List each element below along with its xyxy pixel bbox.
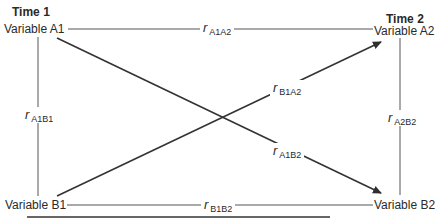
coef-symbol: r	[273, 80, 277, 95]
node-variable-b2: Variable B2	[374, 198, 435, 212]
coef-a1b2: rA1B2	[270, 143, 304, 159]
edge-b1-a2	[57, 42, 381, 196]
coef-symbol: r	[388, 110, 392, 125]
coef-a1a2: rA1A2	[200, 20, 234, 36]
coef-b1b2: rB1B2	[201, 197, 235, 213]
node-variable-b1: Variable B1	[5, 198, 66, 212]
coef-subscript: A1A2	[209, 27, 231, 37]
coef-symbol: r	[25, 107, 29, 122]
edge-a1-b2	[57, 38, 381, 193]
coef-subscript: B1A2	[279, 87, 301, 97]
coef-a2b2: rA2B2	[385, 110, 419, 126]
time1-label: Time 1	[12, 5, 50, 19]
node-variable-a2: Variable A2	[374, 24, 435, 38]
coef-symbol: r	[203, 20, 207, 35]
coef-symbol: r	[204, 197, 208, 212]
coef-subscript: A2B2	[394, 117, 416, 127]
cross-lagged-diagram: Time 1 Time 2 Variable A1 Variable A2 Va…	[0, 0, 439, 221]
coef-subscript: A1B1	[31, 114, 53, 124]
coef-subscript: B1B2	[210, 204, 232, 214]
coef-subscript: A1B2	[279, 150, 301, 160]
coef-b1a2: rB1A2	[270, 80, 304, 96]
node-variable-a1: Variable A1	[4, 22, 65, 36]
coef-symbol: r	[273, 143, 277, 158]
coef-a1b1: rA1B1	[22, 107, 56, 123]
